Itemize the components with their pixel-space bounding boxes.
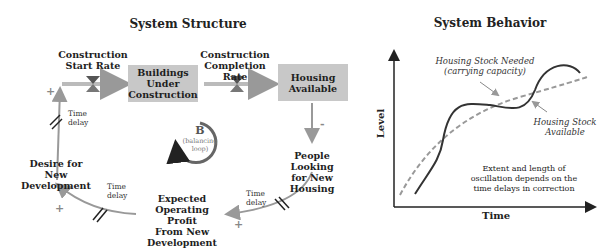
x-axis-label: Time — [482, 210, 510, 221]
loop-letter: B — [183, 124, 217, 137]
sign-housing-people: - — [320, 118, 325, 131]
construction-start-rate-label: Construction Start Rate — [58, 49, 128, 71]
oscillation-note: Extent and length of oscillation depends… — [462, 164, 586, 194]
desire-for-new-development-label: Desire for New Development — [18, 158, 94, 191]
behavior-title: System Behavior — [430, 16, 550, 30]
buildings-under-construction-stock: Buildings Under Construction — [128, 65, 198, 102]
time-delay-2: Time delay — [246, 189, 266, 207]
available-annotation: Housing Stock Available — [520, 117, 610, 137]
y-axis-label: Level — [375, 109, 386, 138]
time-delay-1: Time delay — [68, 109, 88, 127]
sign-profit-desire: + — [55, 202, 64, 215]
balancing-loop-label: (balancing loop) — [181, 137, 219, 153]
construction-completion-rate-label: Construction Completion Rate — [196, 49, 274, 82]
needed-annotation: Housing Stock Needed (carrying capacity) — [430, 56, 540, 76]
people-looking-label: People Looking for New Housing — [272, 150, 352, 194]
sign-desire-start: + — [46, 85, 55, 98]
expected-operating-profit-label: Expected Operating Profit From New Devel… — [140, 193, 224, 248]
housing-available-stock: Housing Available — [278, 64, 348, 101]
time-delay-3: Time delay — [107, 182, 127, 200]
diagram-arrows — [0, 0, 610, 250]
sign-people-profit: + — [234, 218, 243, 231]
